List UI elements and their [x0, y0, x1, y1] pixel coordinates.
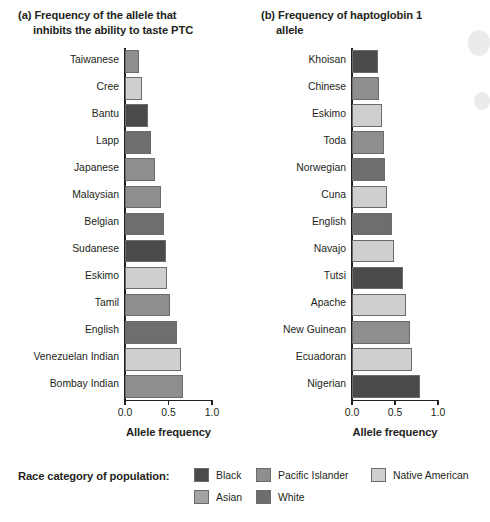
- bar-row: Tamil: [125, 292, 212, 319]
- x-axis-tick-label: 1.0: [431, 407, 445, 418]
- bar: [125, 104, 148, 127]
- x-axis-tick-label: 0.0: [345, 407, 359, 418]
- chart-panels: (a) Frequency of the allele that inhibit…: [0, 0, 486, 440]
- bar-category-label: Belgian: [84, 215, 119, 228]
- bar-category-label: Cree: [96, 80, 119, 93]
- panel-a-title-line-2: inhibits the ability to taste PTC: [18, 23, 233, 38]
- legend-swatch: [194, 468, 209, 482]
- panel-b-bar-rows: KhoisanChineseEskimoTodaNorwegianCunaEng…: [352, 48, 438, 400]
- bar: [352, 131, 384, 154]
- x-axis-tick-label: 0.5: [161, 407, 175, 418]
- legend-item-asian: Asian: [194, 490, 242, 504]
- legend-item-black: Black: [194, 468, 241, 482]
- bar-category-label: English: [312, 215, 346, 228]
- bar-row: Khoisan: [352, 48, 438, 75]
- bar-category-label: Bantu: [92, 107, 119, 120]
- bar-row: Cuna: [352, 183, 438, 210]
- bar-category-label: Nigerian: [307, 377, 346, 390]
- bar-row: Lapp: [125, 129, 212, 156]
- bar-category-label: Lapp: [96, 134, 119, 147]
- bar-row: Eskimo: [125, 265, 212, 292]
- bar: [352, 375, 420, 398]
- bar: [125, 321, 177, 344]
- bar: [352, 348, 412, 371]
- bar: [125, 186, 161, 209]
- bar: [125, 131, 151, 154]
- bar: [125, 267, 167, 290]
- bar-row: Taiwanese: [125, 48, 212, 75]
- bar-row: English: [125, 319, 212, 346]
- bar-category-label: Khoisan: [308, 53, 346, 66]
- bar: [352, 321, 410, 344]
- bar-row: Malaysian: [125, 183, 212, 210]
- bar-row: New Guinean: [352, 319, 438, 346]
- bar-row: Apache: [352, 292, 438, 319]
- bar-row: Navajo: [352, 238, 438, 265]
- chart-panel-a: (a) Frequency of the allele that inhibit…: [0, 0, 243, 440]
- bar-category-label: English: [85, 323, 119, 336]
- legend-item-white: White: [256, 490, 305, 504]
- chart-panel-b: (b) Frequency of haptoglobin 1 allele Kh…: [243, 0, 486, 440]
- bar: [352, 50, 378, 73]
- bar-row: Norwegian: [352, 156, 438, 183]
- legend-label: Black: [216, 470, 241, 481]
- bar-category-label: Taiwanese: [70, 53, 119, 66]
- bar-category-label: Japanese: [74, 161, 119, 174]
- bar: [125, 77, 142, 100]
- x-axis-tick-label: 0.5: [388, 407, 402, 418]
- legend-label: Native American: [393, 470, 469, 481]
- bar-category-label: Chinese: [308, 80, 346, 93]
- x-axis-tick: [211, 400, 212, 405]
- bar: [352, 267, 403, 290]
- bar: [352, 186, 387, 209]
- x-axis-tick: [168, 400, 169, 405]
- bar: [125, 294, 170, 317]
- panel-a-x-axis-title: Allele frequency: [126, 426, 211, 438]
- legend-swatch: [256, 468, 271, 482]
- bar-category-label: Eskimo: [85, 269, 119, 282]
- panel-b-title: (b) Frequency of haptoglobin 1 allele: [261, 8, 476, 37]
- bar: [352, 104, 382, 127]
- bar-row: Nigerian: [352, 373, 438, 400]
- panel-b-title-line-2: allele: [261, 23, 476, 38]
- bar-category-label: Navajo: [314, 242, 346, 255]
- bar-row: Toda: [352, 129, 438, 156]
- panel-a-title: (a) Frequency of the allele that inhibit…: [18, 8, 233, 37]
- bar: [352, 158, 385, 181]
- bar-row: Cree: [125, 75, 212, 102]
- legend-label: Asian: [216, 492, 242, 503]
- panel-b-x-axis-title: Allele frequency: [353, 426, 438, 438]
- legend-item-native-american: Native American: [371, 468, 469, 482]
- x-axis-tick: [437, 400, 438, 405]
- bar-category-label: Venezuelan Indian: [33, 350, 119, 363]
- bar-row: Sudanese: [125, 238, 212, 265]
- bar: [125, 240, 166, 263]
- bar-category-label: New Guinean: [283, 323, 346, 336]
- panel-a-plot-area: TaiwaneseCreeBantuLappJapaneseMalaysianB…: [125, 48, 212, 400]
- bar-row: English: [352, 210, 438, 237]
- bar: [352, 240, 394, 263]
- legend-swatch: [194, 490, 209, 504]
- bar: [125, 50, 139, 73]
- bar-row: Bantu: [125, 102, 212, 129]
- bar-category-label: Norwegian: [296, 161, 346, 174]
- bar-category-label: Eskimo: [312, 107, 346, 120]
- x-axis-tick-label: 1.0: [205, 407, 219, 418]
- panel-a-title-line-1: (a) Frequency of the allele that: [18, 8, 233, 23]
- bar: [352, 77, 379, 100]
- bar-category-label: Tamil: [95, 296, 119, 309]
- bar-row: Tutsi: [352, 265, 438, 292]
- legend-label: Pacific Islander: [278, 470, 348, 481]
- x-axis-tick: [351, 400, 352, 405]
- legend-title: Race category of population:: [18, 470, 169, 482]
- bar-category-label: Apache: [311, 296, 346, 309]
- bar: [125, 348, 181, 371]
- panel-a-bar-rows: TaiwaneseCreeBantuLappJapaneseMalaysianB…: [125, 48, 212, 400]
- bar-category-label: Malaysian: [72, 188, 119, 201]
- bar-row: Venezuelan Indian: [125, 346, 212, 373]
- legend-label: White: [278, 492, 305, 503]
- bar-row: Eskimo: [352, 102, 438, 129]
- chart-legend: Race category of population: BlackAsianP…: [0, 452, 486, 516]
- bar-category-label: Toda: [323, 134, 346, 147]
- legend-swatch: [256, 490, 271, 504]
